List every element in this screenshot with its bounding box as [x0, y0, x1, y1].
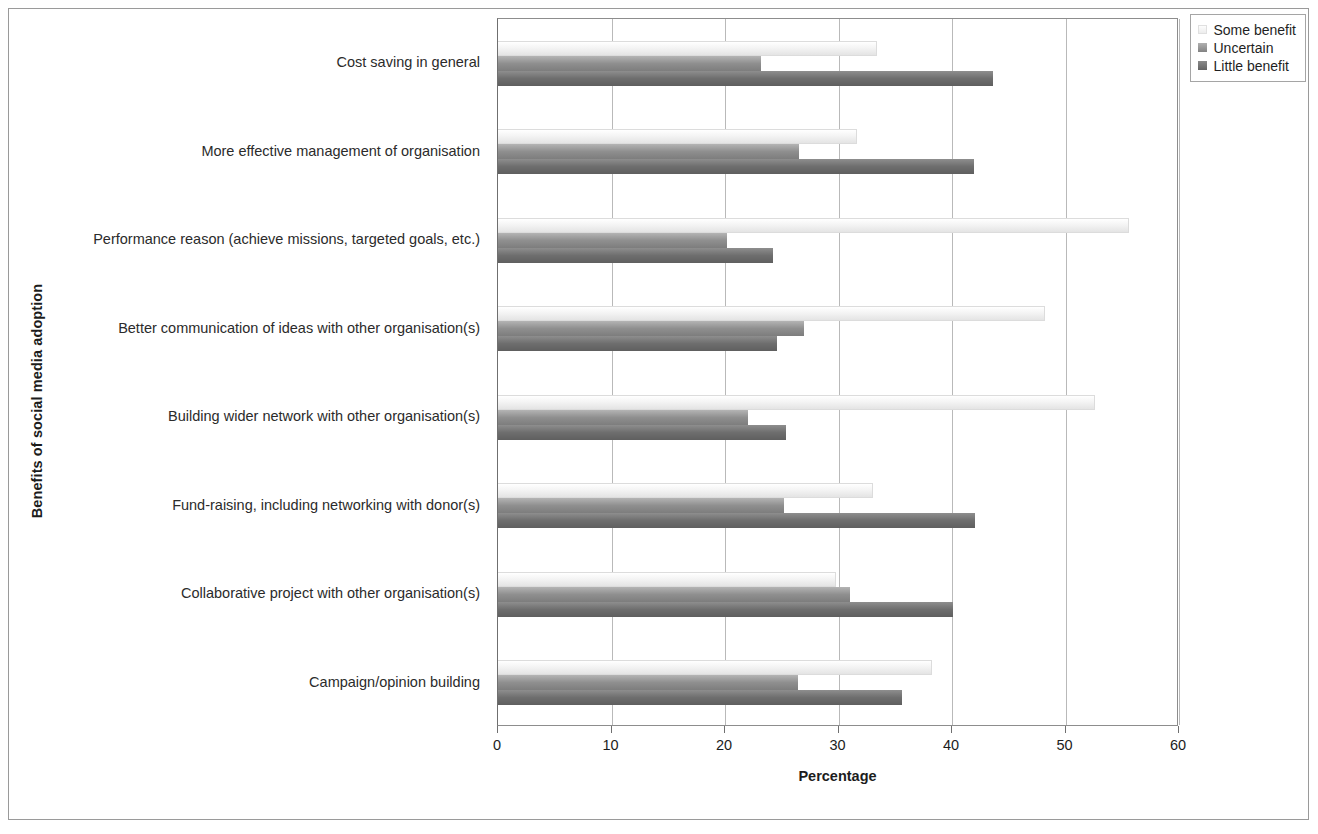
legend-item: Some benefit	[1198, 21, 1297, 38]
bar-some	[498, 129, 857, 144]
bar-little	[498, 425, 786, 440]
bar-group	[498, 129, 1177, 174]
x-tick-label-10: 10	[602, 737, 618, 753]
category-label: Campaign/opinion building	[309, 674, 480, 690]
chart-legend: Some benefitUncertainLittle benefit	[1190, 14, 1307, 82]
bar-little	[498, 159, 974, 174]
x-tick-label-20: 20	[716, 737, 732, 753]
x-tick-30	[838, 726, 839, 733]
x-tick-label-50: 50	[1056, 737, 1072, 753]
bar-uncertain	[498, 498, 784, 513]
x-tick-10	[611, 726, 612, 733]
x-axis-tick-labels: 0102030405060	[497, 737, 1178, 759]
bar-uncertain	[498, 233, 727, 248]
x-tick-20	[724, 726, 725, 733]
bar-little	[498, 602, 953, 617]
x-tick-60	[1178, 726, 1179, 733]
x-tick-label-30: 30	[829, 737, 845, 753]
bar-uncertain	[498, 144, 799, 159]
bar-some	[498, 218, 1129, 233]
bar-group	[498, 41, 1177, 86]
x-tick-0	[497, 726, 498, 733]
legend-swatch-icon	[1198, 43, 1207, 52]
bar-group	[498, 572, 1177, 617]
bar-series-container	[498, 19, 1177, 725]
plot-area	[497, 18, 1178, 726]
x-tick-label-0: 0	[493, 737, 501, 753]
category-label: Better communication of ideas with other…	[118, 320, 480, 336]
bar-little	[498, 513, 975, 528]
x-tick-50	[1065, 726, 1066, 733]
gridline-60	[1179, 19, 1180, 725]
bar-little	[498, 71, 993, 86]
category-label: Collaborative project with other organis…	[181, 585, 480, 601]
x-axis-ticks	[497, 726, 1178, 734]
legend-label: Uncertain	[1214, 40, 1274, 56]
bar-group	[498, 395, 1177, 440]
legend-swatch-icon	[1198, 25, 1207, 34]
category-label: Performance reason (achieve missions, ta…	[93, 231, 480, 247]
bar-little	[498, 336, 777, 351]
legend-swatch-icon	[1198, 61, 1207, 70]
bar-little	[498, 690, 902, 705]
bar-some	[498, 306, 1045, 321]
category-label: Fund-raising, including networking with …	[172, 497, 480, 513]
legend-label: Some benefit	[1214, 22, 1297, 38]
category-label: More effective management of organisatio…	[201, 143, 480, 159]
category-label: Cost saving in general	[337, 54, 480, 70]
bar-some	[498, 660, 932, 675]
bar-uncertain	[498, 675, 798, 690]
bar-uncertain	[498, 56, 761, 71]
bar-uncertain	[498, 410, 748, 425]
legend-label: Little benefit	[1214, 58, 1290, 74]
x-tick-40	[951, 726, 952, 733]
bar-group	[498, 218, 1177, 263]
bar-some	[498, 395, 1095, 410]
bar-group	[498, 483, 1177, 528]
bar-some	[498, 483, 873, 498]
bar-uncertain	[498, 587, 850, 602]
chart-figure: Benefits of social media adoption Cost s…	[0, 0, 1318, 834]
bar-little	[498, 248, 773, 263]
bar-some	[498, 572, 836, 587]
bar-some	[498, 41, 877, 56]
x-tick-label-40: 40	[943, 737, 959, 753]
bar-group	[498, 660, 1177, 705]
category-label: Building wider network with other organi…	[168, 408, 480, 424]
legend-item: Uncertain	[1198, 39, 1297, 56]
bar-group	[498, 306, 1177, 351]
legend-item: Little benefit	[1198, 57, 1297, 74]
category-axis-labels: Cost saving in generalMore effective man…	[40, 18, 488, 726]
bar-uncertain	[498, 321, 804, 336]
x-axis-title: Percentage	[497, 768, 1178, 784]
x-tick-label-60: 60	[1170, 737, 1186, 753]
